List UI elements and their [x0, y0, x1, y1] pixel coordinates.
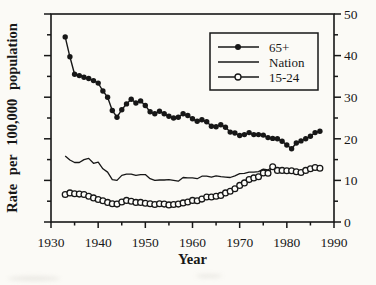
y-tick-label: 10 — [344, 173, 358, 188]
x-tick-label: 1980 — [273, 235, 300, 250]
y-axis-title: Rate per 100,000 population — [4, 23, 20, 213]
legend-label: 65+ — [269, 40, 289, 55]
y-tick-label: 40 — [344, 48, 358, 63]
y-tick-label: 0 — [344, 215, 351, 230]
y-axis-title: Rate per 100,000 population — [4, 23, 20, 213]
x-axis-ticks: 1930194019501960197019801990 — [38, 222, 348, 250]
series-15-24 — [62, 164, 323, 208]
legend-label: Nation — [269, 55, 305, 70]
scan-artifact — [8, 276, 60, 281]
y-tick-label: 20 — [344, 132, 358, 147]
legend-label: 15-24 — [269, 70, 300, 85]
scanned-figure-page: 0102030405019301940195019601970198019906… — [0, 0, 376, 285]
y-tick-label: 50 — [344, 7, 358, 22]
legend-box: 65+Nation15-24 — [210, 33, 318, 90]
x-tick-label: 1990 — [321, 235, 348, 250]
y-tick-label: 30 — [344, 90, 358, 105]
x-axis-title: Year — [178, 251, 208, 267]
x-tick-label: 1970 — [226, 235, 253, 250]
scan-artifact — [196, 274, 222, 278]
x-tick-label: 1950 — [132, 235, 159, 250]
suicide-rate-line-chart: 0102030405019301940195019601970198019906… — [0, 0, 376, 285]
x-tick-label: 1940 — [85, 235, 112, 250]
x-axis-title: Year — [178, 251, 208, 267]
x-tick-label: 1960 — [179, 235, 206, 250]
x-tick-label: 1930 — [38, 235, 65, 250]
